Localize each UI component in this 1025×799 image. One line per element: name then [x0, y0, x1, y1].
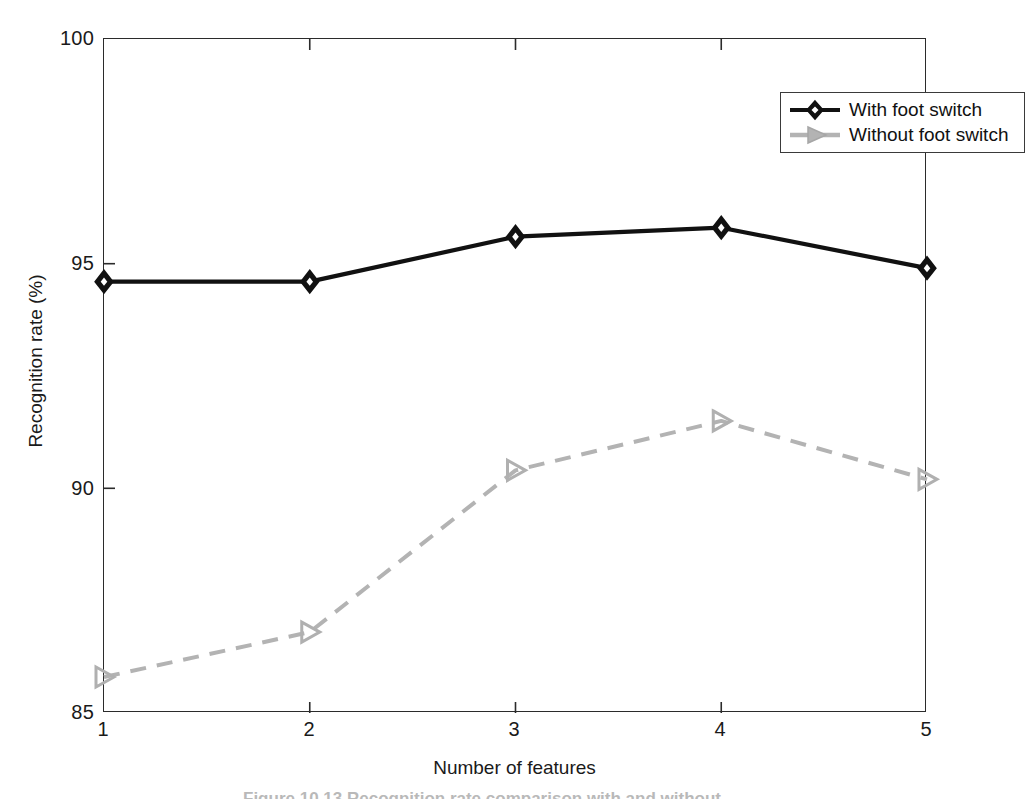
- diamond-marker-icon: [789, 99, 841, 121]
- x-axis-ticks-top: [310, 39, 722, 50]
- legend-entry-with-foot-switch[interactable]: With foot switch: [789, 97, 1016, 122]
- y-tick-label-100: 100: [38, 28, 94, 48]
- chart-legend[interactable]: With foot switch Without foot switch: [780, 92, 1025, 153]
- x-tick-label-3: 3: [494, 719, 534, 739]
- series-line-without-foot-switch: [104, 421, 927, 677]
- figure-caption: Figure 10.13 Recognition rate comparison…: [0, 789, 964, 799]
- plot-area: With foot switch Without foot switch: [103, 38, 926, 712]
- x-axis-title: Number of features: [103, 757, 926, 779]
- y-axis-ticks: [104, 264, 115, 489]
- x-tick-label-4: 4: [700, 719, 740, 739]
- x-tick-label-2: 2: [289, 719, 329, 739]
- legend-entry-without-foot-switch[interactable]: Without foot switch: [789, 122, 1016, 147]
- x-axis-tick-labels: 1 2 3 4 5: [0, 719, 964, 745]
- x-axis-ticks-bottom: [310, 702, 722, 713]
- legend-label-without-foot-switch: Without foot switch: [849, 125, 1008, 144]
- x-tick-label-5: 5: [906, 719, 946, 739]
- series-with-foot-switch: [95, 217, 935, 293]
- x-tick-label-1: 1: [83, 719, 123, 739]
- legend-label-with-foot-switch: With foot switch: [849, 100, 982, 119]
- series-markers-without-foot-switch: [96, 411, 937, 687]
- triangle-marker-icon: [789, 124, 841, 146]
- series-without-foot-switch: [96, 411, 937, 687]
- y-axis-title: Recognition rate (%): [25, 221, 47, 501]
